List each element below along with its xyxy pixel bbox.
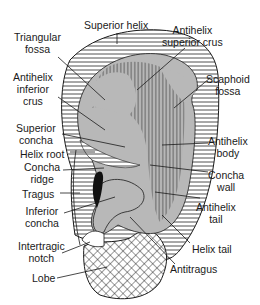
label-helix-root: Helix root [20, 148, 64, 160]
label-concha-wall: Concha wall [208, 169, 244, 193]
label-triangular-fossa: Triangular fossa [14, 31, 61, 55]
label-scaphoid-fossa: Scaphoid fossa [206, 73, 250, 97]
label-intertragic-notch: Intertragic notch [18, 240, 65, 264]
label-inferior-concha: Inferior concha [25, 205, 59, 229]
label-antihelix-body: Antihelix body [208, 135, 248, 159]
label-antitragus: Antitragus [170, 263, 217, 275]
label-tragus: Tragus [22, 188, 54, 200]
label-superior-helix: Superior helix [84, 19, 148, 31]
label-concha-ridge: Concha ridge [24, 161, 60, 185]
label-antihelix-tail: Antihelix tail [196, 201, 236, 225]
label-antihelix-inferior-crus: Antihelix inferior crus [13, 71, 53, 107]
label-antihelix-superior-crus: Antihelix superior crus [162, 24, 223, 48]
label-superior-concha: Superior concha [16, 122, 56, 146]
label-lobe: Lobe [32, 272, 55, 284]
label-helix-tail: Helix tail [192, 243, 232, 255]
